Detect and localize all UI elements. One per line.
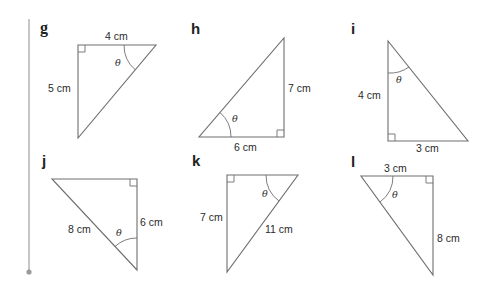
triangle-figures: g θ 4 cm 5 cm h θ 7 cm 6 cm i θ 4 cm 3 c… <box>0 0 497 288</box>
angle-arc <box>115 238 137 247</box>
side-label-top: 4 cm <box>105 30 128 42</box>
triangle-j <box>52 179 137 270</box>
side-label-bottom: 6 cm <box>234 141 257 153</box>
side-label-left: 7 cm <box>200 211 223 223</box>
side-label-left: 5 cm <box>48 82 71 94</box>
worksheet-page: g θ 4 cm 5 cm h θ 7 cm 6 cm i θ 4 cm 3 c… <box>0 0 497 288</box>
side-label-hypotenuse: 8 cm <box>68 223 91 235</box>
problem-l: l θ 3 cm 8 cm <box>351 153 460 275</box>
problem-h: h θ 7 cm 6 cm <box>191 20 311 153</box>
right-angle-marker <box>388 134 395 141</box>
theta-label: θ <box>396 74 402 85</box>
triangle-h <box>199 38 284 137</box>
side-label-top: 3 cm <box>384 162 407 174</box>
angle-arc <box>124 45 136 70</box>
problem-k: k θ 7 cm 11 cm <box>192 152 298 272</box>
right-angle-marker <box>426 176 433 183</box>
angle-arc <box>266 175 279 201</box>
problem-letter: h <box>191 20 200 37</box>
side-label-bottom: 3 cm <box>416 142 439 154</box>
problem-letter: g <box>40 19 48 37</box>
side-label-right: 7 cm <box>288 82 311 94</box>
right-angle-marker <box>227 175 234 182</box>
right-angle-marker <box>78 45 85 52</box>
theta-label: θ <box>262 188 268 199</box>
problem-letter: k <box>192 152 201 169</box>
problem-letter: l <box>351 153 355 170</box>
theta-label: θ <box>115 57 121 68</box>
theta-label: θ <box>392 189 398 200</box>
triangle-i <box>388 41 468 141</box>
side-label-left: 4 cm <box>358 89 381 101</box>
side-label-hypotenuse: 11 cm <box>265 223 293 235</box>
angle-arc <box>388 67 409 73</box>
theta-label: θ <box>232 113 238 124</box>
side-label-right: 6 cm <box>140 216 163 228</box>
right-angle-marker <box>130 179 137 186</box>
problem-letter: j <box>41 152 46 169</box>
side-label-right: 8 cm <box>437 232 460 244</box>
angle-arc <box>220 113 231 138</box>
right-angle-marker <box>277 130 284 137</box>
theta-label: θ <box>116 227 122 238</box>
problem-j: j θ 8 cm 6 cm <box>41 152 163 270</box>
problem-i: i θ 4 cm 3 cm <box>351 20 468 154</box>
problem-g: g θ 4 cm 5 cm <box>40 19 156 138</box>
margin-rule <box>26 19 31 275</box>
problem-letter: i <box>351 20 355 37</box>
